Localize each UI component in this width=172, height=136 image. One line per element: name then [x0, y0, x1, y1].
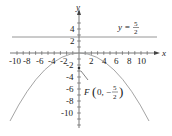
svg-text:5: 5 — [134, 20, 138, 28]
svg-text:2: 2 — [134, 28, 138, 36]
y-tick-labels: 4 2 -2 -4 -6 -8 -10 — [61, 24, 75, 118]
svg-text:-6: -6 — [66, 84, 74, 94]
x-axis-arrow-icon — [154, 51, 160, 55]
svg-text:(: ( — [92, 84, 96, 99]
focus-pointer-line — [81, 71, 88, 80]
svg-text:-4: -4 — [48, 56, 56, 66]
svg-text:2: 2 — [70, 36, 75, 46]
svg-text:-2: -2 — [66, 60, 74, 70]
focus-label: F ( 0, − 5 2 ) — [83, 84, 123, 101]
svg-text:4: 4 — [70, 24, 75, 34]
svg-text:-10: -10 — [61, 108, 73, 118]
y-axis-label: y — [75, 2, 80, 12]
svg-text:-10: -10 — [9, 56, 21, 66]
svg-text:F: F — [83, 87, 90, 97]
svg-text:0,: 0, — [97, 87, 104, 97]
svg-text:2: 2 — [89, 56, 94, 66]
svg-text:-4: -4 — [66, 72, 74, 82]
svg-text:8: 8 — [127, 56, 132, 66]
svg-text:-8: -8 — [66, 96, 74, 106]
x-axis — [10, 51, 160, 55]
svg-text:-8: -8 — [23, 56, 31, 66]
svg-text:6: 6 — [114, 56, 119, 66]
directrix-label: y = 5 2 — [117, 20, 139, 36]
svg-text:−: − — [106, 87, 111, 97]
svg-text:5: 5 — [113, 84, 117, 92]
svg-text:4: 4 — [102, 56, 107, 66]
svg-text:y =: y = — [117, 22, 130, 32]
focus-point — [78, 67, 81, 70]
svg-text:10: 10 — [137, 56, 147, 66]
x-axis-label: x — [161, 48, 166, 58]
x-tick-labels: -10 -8 -6 -4 -2 2 4 6 8 10 — [9, 56, 147, 66]
parabola-diagram: y x -10 -8 -6 -4 -2 2 4 6 8 10 4 2 -2 -4… — [0, 0, 172, 136]
svg-text:-6: -6 — [36, 56, 44, 66]
svg-text:2: 2 — [113, 93, 117, 101]
svg-text:): ) — [119, 84, 123, 99]
